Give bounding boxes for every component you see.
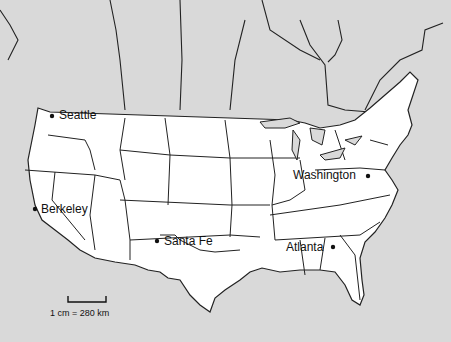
city-label-berkeley: Berkeley <box>41 203 88 215</box>
scale-label: 1 cm = 280 km <box>50 308 109 318</box>
city-dot-atlanta <box>331 245 335 249</box>
city-label-atlanta: Atlanta <box>286 241 323 253</box>
city-label-seattle: Seattle <box>59 109 96 121</box>
canada-borders <box>0 0 443 112</box>
city-label-washington: Washington <box>293 169 356 181</box>
city-label-santa-fe: Santa Fe <box>164 235 213 247</box>
city-dot-berkeley <box>33 207 37 211</box>
us-map <box>0 0 451 342</box>
city-dot-washington <box>366 174 370 178</box>
scale-bar <box>68 296 106 302</box>
city-dot-seattle <box>50 114 54 118</box>
city-dot-santa-fe <box>155 239 159 243</box>
